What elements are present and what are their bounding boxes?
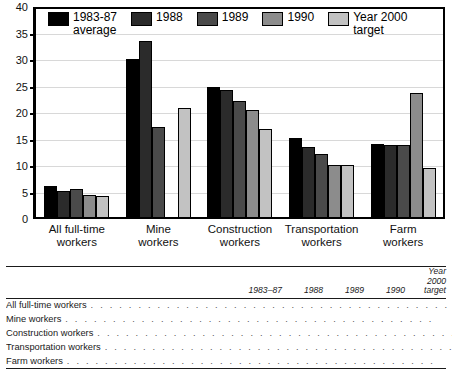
- table-row-label: Farm workers: [6, 356, 63, 367]
- bar: [302, 147, 315, 217]
- legend-swatch-icon: [131, 12, 152, 26]
- bar: [384, 145, 397, 217]
- bar: [259, 129, 272, 217]
- y-axis-tick-label: 40: [16, 2, 28, 13]
- table-column-header: 1988: [282, 267, 323, 298]
- data-table-body-wrap: All full-time workers. . . . . . . . . .…: [6, 299, 452, 368]
- table-row-label-cell: Farm workers. . . . . . . . . . . . . . …: [6, 354, 452, 368]
- table-column-header: [6, 267, 241, 298]
- bar: [289, 138, 302, 217]
- table-column-header: 1990: [364, 267, 405, 298]
- y-axis-tick-label: 25: [16, 81, 28, 92]
- dot-leader: . . . . . . . . . . . . . . . . . . . . …: [105, 342, 452, 353]
- table-row-label: Transportation workers: [6, 342, 101, 353]
- table-column-header: 1983–87: [241, 267, 282, 298]
- bar: [44, 186, 57, 217]
- legend-item: 1983-87 average: [48, 11, 117, 36]
- x-axis-category-labels: All full-time workersMine workersConstru…: [36, 223, 444, 248]
- legend-swatch-icon: [197, 12, 218, 26]
- table-column-header: 1989: [323, 267, 364, 298]
- x-axis-category-label: All full-time workers: [36, 223, 118, 248]
- bar: [70, 189, 83, 217]
- bar: [220, 90, 233, 217]
- table-bottom-rule: [6, 368, 446, 369]
- legend-label: 1989: [222, 11, 249, 24]
- x-axis-category-label: Transportation workers: [281, 223, 363, 248]
- table-head: 1983–87198819891990Year 2000 target: [6, 267, 446, 298]
- table-row-label: All full-time workers: [6, 300, 87, 311]
- y-axis-tick-label: 30: [16, 55, 28, 66]
- legend-item: Year 2000 target: [328, 11, 407, 36]
- table-body: All full-time workers. . . . . . . . . .…: [6, 299, 452, 368]
- bar-group: [199, 9, 281, 217]
- table-row-label-cell: Construction workers. . . . . . . . . . …: [6, 327, 452, 341]
- bar: [371, 144, 384, 217]
- legend-item: 1989: [197, 11, 249, 26]
- table-row: Construction workers. . . . . . . . . . …: [6, 327, 452, 341]
- x-axis-category-label: Construction workers: [199, 223, 281, 248]
- legend-label: Year 2000 target: [353, 11, 407, 36]
- x-axis-category-label: Farm workers: [362, 223, 444, 248]
- y-axis-tick-label: 10: [16, 161, 28, 172]
- y-axis-tick-label: 20: [16, 108, 28, 119]
- bar: [397, 145, 410, 217]
- y-axis-labels: 0510152025303540: [0, 0, 31, 226]
- chart-legend: 1983-87 average198819891990Year 2000 tar…: [48, 11, 407, 36]
- table-row-label-cell: Mine workers. . . . . . . . . . . . . . …: [6, 313, 452, 327]
- bar-chart-figure: 0510152025303540 1983-87 average19881989…: [0, 0, 452, 385]
- bar-group: [281, 9, 363, 217]
- bar: [233, 101, 246, 217]
- y-axis-tick-label: 15: [16, 134, 28, 145]
- table-row: All full-time workers. . . . . . . . . .…: [6, 299, 452, 313]
- table-header-row: 1983–87198819891990Year 2000 target: [6, 267, 446, 298]
- bar: [328, 165, 341, 217]
- table-row: Transportation workers. . . . . . . . . …: [6, 340, 452, 354]
- table-row-label-cell: All full-time workers. . . . . . . . . .…: [6, 299, 452, 313]
- legend-label: 1990: [287, 11, 314, 24]
- table-column-header: Year 2000 target: [405, 267, 446, 298]
- legend-item: 1990: [262, 11, 314, 26]
- legend-swatch-icon: [262, 12, 283, 26]
- bar: [57, 191, 70, 217]
- chart-area: 0510152025303540 1983-87 average19881989…: [0, 0, 452, 268]
- bar: [207, 87, 220, 217]
- x-axis-category-label: Mine workers: [118, 223, 200, 248]
- bar-group: [118, 9, 200, 217]
- legend-label: 1983-87 average: [73, 11, 117, 36]
- dot-leader: . . . . . . . . . . . . . . . . . . . . …: [97, 328, 452, 339]
- bar: [423, 168, 436, 217]
- legend-label: 1988: [156, 11, 183, 24]
- table-row: Farm workers. . . . . . . . . . . . . . …: [6, 354, 452, 368]
- bar: [246, 110, 259, 217]
- bar: [126, 59, 139, 217]
- table-row: Mine workers. . . . . . . . . . . . . . …: [6, 313, 452, 327]
- dot-leader: . . . . . . . . . . . . . . . . . . . . …: [67, 356, 452, 367]
- bar-group: [362, 9, 444, 217]
- data-table: 1983–87198819891990Year 2000 target: [6, 267, 446, 298]
- bar-group: [36, 9, 118, 217]
- dot-leader: . . . . . . . . . . . . . . . . . . . . …: [65, 314, 452, 325]
- bar: [139, 41, 152, 217]
- y-axis-tick-label: 5: [22, 187, 28, 198]
- bar: [315, 154, 328, 217]
- bar: [152, 127, 165, 217]
- legend-swatch-icon: [48, 12, 69, 26]
- bar: [178, 108, 191, 217]
- dot-leader: . . . . . . . . . . . . . . . . . . . . …: [91, 300, 452, 311]
- legend-item: 1988: [131, 11, 183, 26]
- bar: [83, 195, 96, 217]
- table-row-label-cell: Transportation workers. . . . . . . . . …: [6, 340, 452, 354]
- table-row-label: Mine workers: [6, 314, 61, 325]
- bar: [96, 196, 109, 217]
- data-table-block: 1983–87198819891990Year 2000 target All …: [6, 266, 446, 381]
- bar: [410, 93, 423, 217]
- table-row-label: Construction workers: [6, 328, 93, 339]
- bar-groups: [36, 9, 444, 217]
- y-axis-tick-label: 35: [16, 28, 28, 39]
- bar: [341, 165, 354, 217]
- y-axis-tick-label: 0: [22, 214, 28, 225]
- legend-swatch-icon: [328, 12, 349, 26]
